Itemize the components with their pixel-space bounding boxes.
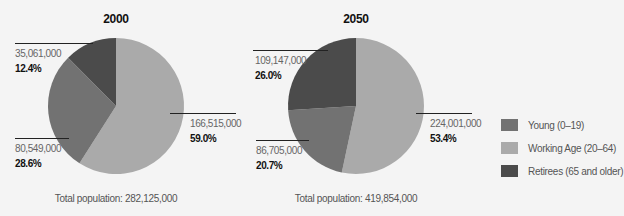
pie-charts-canvas [0, 0, 624, 216]
label-retirees-2050: 109,147,000 26.0% [255, 55, 306, 82]
legend-label-young: Young (0–19) [528, 120, 584, 131]
percent-retirees-2050: 26.0% [255, 70, 306, 82]
legend-label-working-age: Working Age (20–64) [528, 143, 616, 154]
pie-2000 [48, 38, 184, 174]
label-working-2000: 166,515,000 59.0% [190, 118, 241, 145]
total-population-2000: Total population: 282,125,000 [55, 193, 178, 204]
leader-line-retirees-2050 [253, 50, 328, 51]
leader-line-retirees-2000 [15, 43, 93, 44]
chart-title-2000: 2000 [103, 12, 129, 26]
chart-title-2050: 2050 [343, 12, 369, 26]
label-young-2050: 86,705,000 20.7% [256, 145, 302, 172]
legend-swatch-retirees [501, 165, 518, 177]
percent-retirees-2000: 12.4% [15, 63, 61, 75]
total-population-2050: Total population: 419,854,000 [295, 193, 418, 204]
value-working-2050: 224,001,000 [430, 118, 481, 130]
legend-swatch-young [501, 119, 518, 131]
label-young-2000: 80,549,000 28.6% [15, 143, 61, 170]
label-working-2050: 224,001,000 53.4% [430, 118, 481, 145]
value-young-2000: 80,549,000 [15, 143, 61, 155]
pie-2050 [288, 38, 424, 174]
value-retirees-2000: 35,061,000 [15, 48, 61, 60]
legend-label-retirees: Retirees (65 and older) [528, 166, 623, 177]
leader-line-working-2000 [170, 113, 236, 114]
percent-young-2050: 20.7% [256, 160, 302, 172]
value-young-2050: 86,705,000 [256, 145, 302, 157]
value-working-2000: 166,515,000 [190, 118, 241, 130]
percent-working-2050: 53.4% [430, 133, 481, 145]
legend-item-retirees: Retirees (65 and older) [501, 165, 623, 177]
percent-working-2000: 59.0% [190, 133, 241, 145]
leader-line-young-2050 [256, 140, 309, 141]
leader-line-young-2000 [15, 138, 69, 139]
label-retirees-2000: 35,061,000 12.4% [15, 48, 61, 75]
percent-young-2000: 28.6% [15, 158, 61, 170]
legend-item-working-age: Working Age (20–64) [501, 142, 616, 154]
legend-item-young: Young (0–19) [501, 119, 584, 131]
legend-swatch-working-age [501, 142, 518, 154]
value-retirees-2050: 109,147,000 [255, 55, 306, 67]
leader-line-working-2050 [416, 113, 472, 114]
